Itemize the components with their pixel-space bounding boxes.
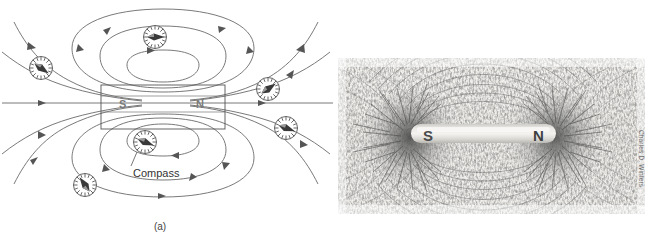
arrowhead-bot-2 xyxy=(158,193,166,199)
arrowhead-axis-left xyxy=(38,100,46,106)
arrowhead-open-lr-2 xyxy=(300,140,308,148)
arrowhead-bot-5 xyxy=(189,173,197,181)
compass-lower-right xyxy=(275,117,298,140)
field-line-diagram-svg: S N xyxy=(0,0,335,250)
arrowhead-bot-3 xyxy=(222,162,230,170)
figure-magnetic-field: S N xyxy=(0,0,670,250)
arrowhead-open-ll-1 xyxy=(38,131,46,139)
photo-pole-label-s: S xyxy=(423,127,433,144)
photo-pole-label-n: N xyxy=(533,127,544,144)
field-loop-bottom-3 xyxy=(72,114,254,197)
magnet-pole-label-s: S xyxy=(119,98,126,110)
compass-top xyxy=(144,26,167,49)
arrowhead-top-4 xyxy=(218,26,226,33)
arrowhead-open-ll-2 xyxy=(30,157,38,165)
compass-upper-left xyxy=(30,57,53,80)
photo-edge-fade-left xyxy=(338,58,346,214)
photo-edge-fade-bottom xyxy=(338,205,645,214)
photo-credit: Charles D. Winters xyxy=(638,130,645,220)
panel-b-photograph: S N (b) xyxy=(335,0,670,250)
field-loop-top-1 xyxy=(127,50,199,82)
field-loop-top-3 xyxy=(72,9,254,92)
compass-lower-left xyxy=(74,174,97,197)
compass-upper-right xyxy=(257,78,280,101)
field-line-open-ur-1 xyxy=(190,22,318,100)
arrowhead-top-5 xyxy=(103,27,111,35)
field-line-open-ul-2 xyxy=(2,52,142,101)
arrowhead-top-3 xyxy=(246,46,254,54)
compass-leader-line xyxy=(131,152,137,166)
arrowhead-bot-1 xyxy=(171,152,179,159)
field-line-open-lr-1 xyxy=(190,106,318,184)
arrowhead-bot-4 xyxy=(102,164,110,172)
arrowhead-top-2 xyxy=(76,44,84,52)
panel-a-caption: (a) xyxy=(140,221,180,232)
compass-center-bottom xyxy=(134,131,157,154)
compass-annotation-label: Compass xyxy=(133,167,180,179)
iron-filings-photo-svg: S N xyxy=(335,0,670,250)
magnet-pole-label-n: N xyxy=(196,98,204,110)
photograph-plate: S N xyxy=(338,34,645,231)
panel-a-diagram: S N xyxy=(0,0,335,250)
bar-magnet-b: S N xyxy=(411,124,556,144)
photo-edge-fade-top xyxy=(338,58,645,67)
arrowhead-open-ur-1 xyxy=(296,44,305,53)
arrowhead-axis-right xyxy=(258,100,266,106)
arrowhead-open-ul-1 xyxy=(27,42,36,50)
bar-magnet-highlight xyxy=(417,127,550,132)
